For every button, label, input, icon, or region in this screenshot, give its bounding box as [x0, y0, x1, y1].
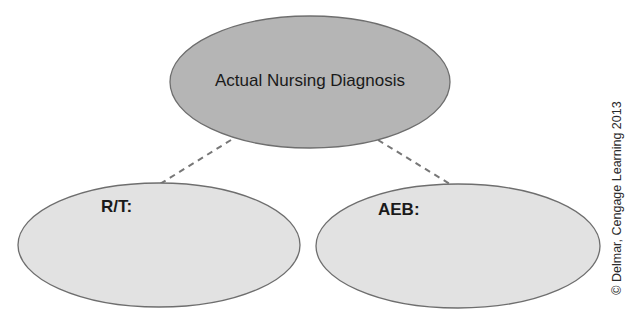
node-as-evidenced-by	[316, 184, 600, 308]
top-node-label: Actual Nursing Diagnosis	[190, 71, 430, 91]
copyright-notice: © Delmar, Cengage Learning 2013	[610, 101, 624, 294]
edge-top-to-rt	[160, 140, 231, 184]
aeb-node-label: AEB:	[378, 200, 420, 220]
rt-node-label: R/T:	[101, 197, 132, 217]
diagram-canvas	[0, 0, 634, 326]
edge-top-to-aeb	[378, 140, 450, 184]
node-related-to	[18, 183, 300, 307]
